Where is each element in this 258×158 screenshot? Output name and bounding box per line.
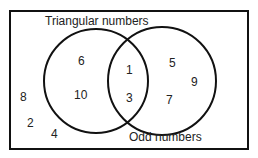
triangular-numbers-circle (44, 29, 148, 133)
number-6: 6 (78, 55, 85, 67)
number-2: 2 (27, 117, 34, 129)
number-10: 10 (74, 89, 87, 101)
number-3: 3 (126, 92, 133, 104)
number-9: 9 (191, 76, 198, 88)
number-5: 5 (169, 57, 176, 69)
number-8: 8 (20, 91, 27, 103)
odd-numbers-label: Odd numbers (129, 131, 202, 143)
odd-numbers-circle (108, 27, 216, 135)
number-1: 1 (126, 64, 133, 76)
universal-set-box (10, 11, 248, 149)
number-4: 4 (51, 128, 58, 140)
triangular-numbers-label: Triangular numbers (45, 15, 149, 27)
number-7: 7 (166, 94, 173, 106)
